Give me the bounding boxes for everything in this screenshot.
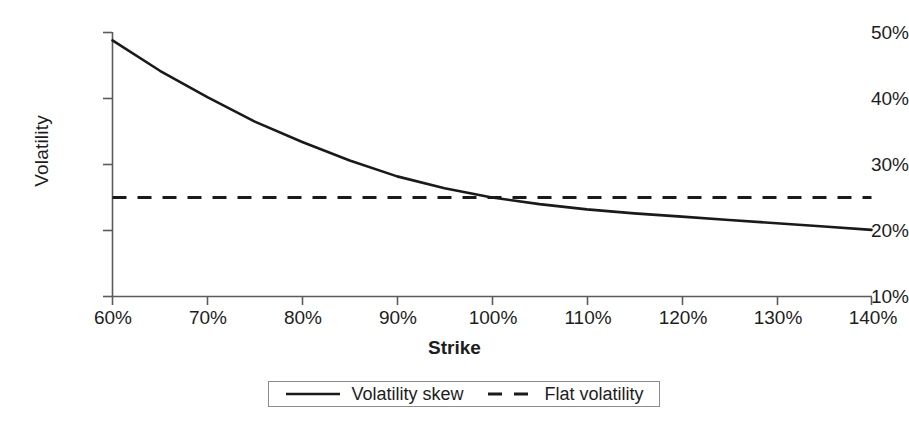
y-axis-ticks [103, 33, 112, 297]
legend-dashed-line-icon [486, 388, 536, 400]
plot-area [0, 0, 909, 437]
x-axis-ticks [113, 297, 872, 305]
series-volatility-skew [113, 40, 872, 229]
legend-item-flat-volatility: Flat volatility [486, 384, 644, 405]
legend-item-volatility-skew: Volatility skew [284, 384, 463, 405]
chart-legend: Volatility skew Flat volatility [268, 381, 660, 407]
legend-label-volatility-skew: Volatility skew [351, 384, 463, 405]
legend-solid-line-icon [284, 388, 342, 400]
legend-label-flat-volatility: Flat volatility [545, 384, 644, 405]
chart-figure: Volatility 50% 40% 30% 20% 10% 60% 70% 8… [0, 0, 909, 437]
